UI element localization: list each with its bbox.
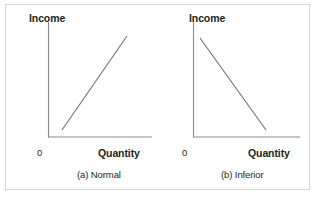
- panel-a-axes: [48, 22, 152, 138]
- panel-b-inferior-good-line: [200, 38, 266, 130]
- panel-a-origin-label: 0: [37, 148, 42, 158]
- panel-a-x-axis-label: Quantity: [98, 148, 140, 159]
- panel-b-axes: [193, 22, 300, 138]
- panel-a-caption: (a) Normal: [77, 170, 121, 180]
- panel-a-y-axis-label: Income: [29, 13, 65, 24]
- figure-graphics: [0, 0, 336, 204]
- panel-b-y-axis-label: Income: [189, 13, 225, 24]
- panel-a-normal-good-line: [62, 36, 127, 130]
- figure-screenshot: Income Quantity 0 (a) Normal Income Quan…: [0, 0, 336, 204]
- panel-b-origin-label: 0: [182, 148, 187, 158]
- panel-b-x-axis-label: Quantity: [248, 148, 290, 159]
- panel-b-caption: (b) Inferior: [221, 170, 264, 180]
